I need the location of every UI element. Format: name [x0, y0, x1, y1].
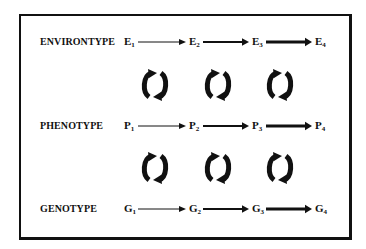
circular-arrows-icon — [203, 151, 233, 185]
arrowhead-icon — [179, 39, 186, 45]
arrows-layer — [0, 0, 366, 249]
circular-arrows-icon — [265, 151, 295, 185]
arrowhead-icon — [305, 38, 312, 47]
arrowhead-icon — [305, 205, 312, 214]
circular-arrows-icon — [140, 68, 170, 102]
arrowhead-icon — [305, 122, 312, 131]
arrowhead-icon — [242, 38, 249, 45]
arrowhead-icon — [242, 205, 249, 212]
arrowhead-icon — [179, 206, 186, 212]
circular-arrows-icon — [140, 151, 170, 185]
arrowhead-icon — [179, 123, 186, 129]
circular-arrows-icon — [203, 68, 233, 102]
arrowhead-icon — [242, 122, 249, 129]
circular-arrows-icon — [265, 68, 295, 102]
